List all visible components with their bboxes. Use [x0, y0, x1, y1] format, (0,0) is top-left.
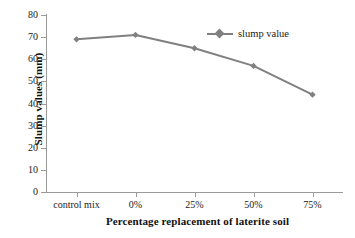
data-point-marker — [191, 45, 197, 51]
legend-marker-icon — [207, 29, 233, 39]
series-layer — [0, 0, 355, 238]
chart-legend: slump value — [207, 28, 289, 39]
data-point-marker — [73, 36, 79, 42]
data-point-marker — [250, 63, 256, 69]
data-point-marker — [132, 32, 138, 38]
legend-label-slump-value: slump value — [238, 28, 289, 39]
series-line-slump-value — [77, 35, 313, 95]
chart-figure: Slump values (mm) Percentage replacement… — [0, 0, 355, 238]
data-point-marker — [309, 91, 315, 97]
